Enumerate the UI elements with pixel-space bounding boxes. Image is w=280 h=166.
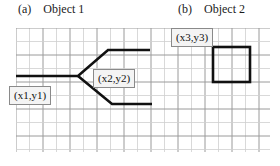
coordinate-label-xy2: (x2,y2)	[93, 69, 135, 88]
figure-canvas: (a)Object 1 (b)Object 2 (x1,y1) (x2,y2) …	[0, 0, 280, 166]
grid-svg	[16, 28, 270, 152]
coordinate-label-xy3: (x3,y3)	[171, 28, 213, 47]
panel-tag-b: (b)	[178, 2, 192, 16]
panel-title-a: Object 1	[43, 2, 84, 16]
background-grid	[16, 28, 270, 152]
panel-caption-a: (a)Object 1	[18, 2, 84, 16]
panel-title-b: Object 2	[204, 2, 245, 16]
coordinate-label-xy1: (x1,y1)	[9, 86, 51, 105]
panel-caption-b: (b)Object 2	[178, 2, 245, 16]
panel-tag-a: (a)	[18, 2, 31, 16]
